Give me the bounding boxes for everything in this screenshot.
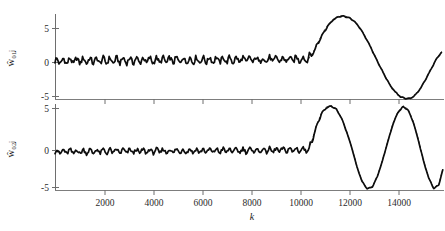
panel-bottom-reference-trace — [308, 106, 442, 189]
panel-top-yticklabel-5: 5 — [44, 24, 49, 34]
xticklabel-6000: 6000 — [194, 198, 213, 208]
xticklabel-4000: 4000 — [145, 198, 164, 208]
panel-bottom-yticklabel-5: 5 — [44, 104, 49, 114]
x-axis-label: k — [250, 211, 255, 222]
xticklabel-2000: 2000 — [96, 198, 115, 208]
figure-container: 5 0 -5 ŵ₀₁ⱼ — [0, 0, 445, 231]
xticklabel-14000: 14000 — [387, 198, 411, 208]
panel-bottom: 5 0 -5 2000 4000 6000 8000 10000 12000 1… — [5, 104, 444, 223]
panel-bottom-ylabel: ŵ₀₂ⱼ — [5, 141, 16, 158]
panel-top-yticklabel-neg5: -5 — [41, 92, 49, 102]
two-panel-line-chart: 5 0 -5 ŵ₀₁ⱼ — [0, 0, 445, 231]
panel-top: 5 0 -5 ŵ₀₁ⱼ — [5, 14, 444, 104]
panel-top-estimate-trace — [55, 16, 441, 99]
panel-top-ylabel: ŵ₀₁ⱼ — [5, 50, 16, 67]
panel-bottom-estimate-trace — [55, 106, 443, 189]
panel-bottom-yticklabel-0: 0 — [44, 146, 49, 156]
xticklabel-10000: 10000 — [289, 198, 313, 208]
panel-bottom-yticklabel-neg5: -5 — [41, 183, 49, 193]
panel-top-yticklabel-0: 0 — [44, 58, 49, 68]
xticklabel-12000: 12000 — [338, 198, 362, 208]
svg-text:ŵ₀₁ⱼ: ŵ₀₁ⱼ — [5, 50, 16, 67]
svg-text:ŵ₀₂ⱼ: ŵ₀₂ⱼ — [5, 141, 16, 158]
xticklabel-8000: 8000 — [243, 198, 262, 208]
